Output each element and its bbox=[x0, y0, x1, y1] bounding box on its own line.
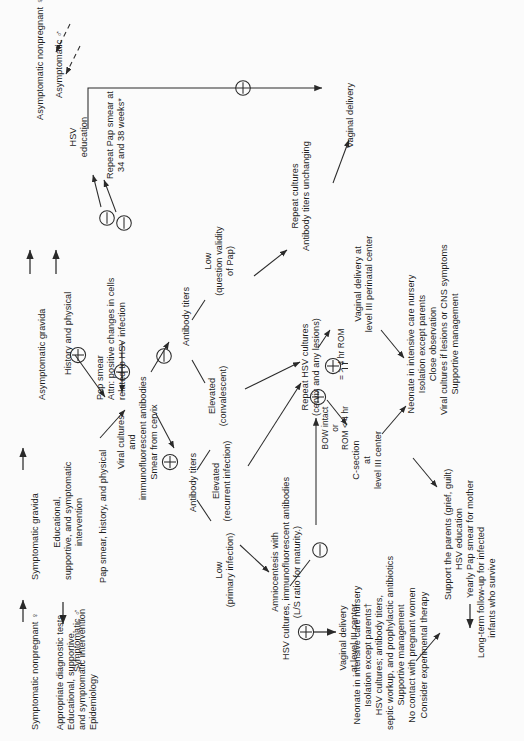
node-symptomatic-gravida: Symptomatic gravida bbox=[30, 493, 41, 580]
node-low-primary-infection: Low (primary infection) bbox=[214, 525, 236, 615]
symbol-minus-amnio bbox=[313, 543, 328, 558]
symbol-minus-cultures bbox=[157, 349, 172, 364]
node-educational-supportive: Educational, supportive, and symptomatic… bbox=[52, 464, 85, 580]
node-neonate-icn-a: Neonate in intensive care nursery Isolat… bbox=[406, 273, 461, 415]
node-hsv-education: HSV education bbox=[68, 109, 90, 165]
node-neonate-icn-b: Neonate in intensive care nursery Isolat… bbox=[352, 580, 430, 730]
symbol-minus-pap-2 bbox=[117, 216, 132, 231]
node-elevated-convalescent: Elevated (convalescent) bbox=[207, 357, 229, 435]
node-appropriate-diagnostic-tests: Appropriate diagnostic tests Educational… bbox=[55, 609, 99, 730]
node-rom-gt-4hr: = > 4 hr ROM bbox=[336, 329, 346, 380]
node-vaginal-delivery-level3-perinatal: Vaginal delivery at level III perinatal … bbox=[353, 232, 375, 336]
node-repeat-cultures: Repeat cultures Antibody titers unchangi… bbox=[290, 134, 312, 258]
node-c-section: C-section at level III center bbox=[351, 420, 384, 500]
node-bow-intact: BOW intact or ROM < 4 hr bbox=[320, 401, 350, 455]
node-long-term-followup: Long-term follow-up for infected infants… bbox=[476, 538, 498, 658]
node-antibody-titers-lower: Antibody titers bbox=[188, 453, 199, 512]
node-asymptomatic-nonpregnant-female: Asymptomatic nonpregnant ♀ bbox=[35, 0, 46, 120]
node-pap-smear-attn: Pap smear Attn: positive changes in cell… bbox=[95, 278, 128, 400]
node-vaginal-delivery: Vaginal delivery bbox=[345, 83, 356, 148]
node-support-parents: Support the parents (grief, guilt) HSV e… bbox=[443, 478, 476, 600]
node-asymptomatic-gravida: Asymptomatic gravida bbox=[37, 309, 48, 400]
symbol-plus-cultures bbox=[162, 454, 177, 469]
node-pap-smear-history-physical: Pap smear, history, and physical bbox=[98, 450, 109, 583]
symbol-minus-pap-1 bbox=[100, 211, 115, 226]
node-elevated-recurrent: Elevated (recurrent infection) bbox=[211, 432, 233, 530]
node-asymptomatic-male: Asymptomatic ♂ bbox=[54, 30, 65, 98]
node-symptomatic-nonpregnant-female: Symptomatic nonpregnant ♀ bbox=[30, 612, 41, 730]
node-history-and-physical: History and physical bbox=[63, 292, 74, 375]
node-viral-cultures: Viral cultures and immunofluorescent ant… bbox=[116, 384, 160, 500]
node-repeat-pap-smear: Repeat Pap smear at 34 and 38 weeks* bbox=[105, 87, 127, 183]
node-repeat-hsv-cultures: Repeat HSV cultures (cervix and any lesi… bbox=[300, 306, 322, 428]
node-antibody-titers-upper: Antibody titers bbox=[181, 287, 192, 346]
node-low-question-validity: Low (question validity of Pap) bbox=[203, 222, 236, 300]
flowchart-canvas: Asymptomatic nonpregnant ♀ Asymptomatic … bbox=[0, 0, 524, 741]
node-amniocentesis: Amniocentesis with HSV cultures, immunof… bbox=[270, 484, 303, 660]
